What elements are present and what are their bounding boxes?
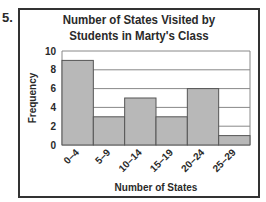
x-tick-label: 15–19 [148, 146, 176, 174]
y-axis-label: Frequency [27, 72, 38, 123]
x-tick-label: 25–29 [210, 146, 238, 174]
bar-5–9 [93, 117, 124, 145]
y-tick-label: 6 [50, 83, 56, 94]
x-tick-label: 0–4 [62, 146, 82, 166]
x-axis-label: Number of States [115, 182, 198, 193]
histogram-chart: 02468100–45–910–1415–1920–2425–29Number … [0, 0, 266, 202]
bar-15–19 [156, 117, 187, 145]
bar-20–24 [187, 89, 218, 145]
y-tick-label: 0 [50, 140, 56, 151]
y-tick-label: 10 [45, 46, 57, 57]
y-tick-label: 4 [50, 102, 56, 113]
x-tick-label: 20–24 [179, 146, 207, 174]
bar-10–14 [125, 98, 156, 145]
bar-0–4 [62, 60, 93, 145]
y-tick-label: 8 [50, 64, 56, 75]
x-tick-label: 5–9 [93, 146, 113, 166]
bar-25–29 [219, 136, 250, 145]
x-tick-label: 10–14 [116, 146, 144, 174]
y-tick-label: 2 [50, 121, 56, 132]
